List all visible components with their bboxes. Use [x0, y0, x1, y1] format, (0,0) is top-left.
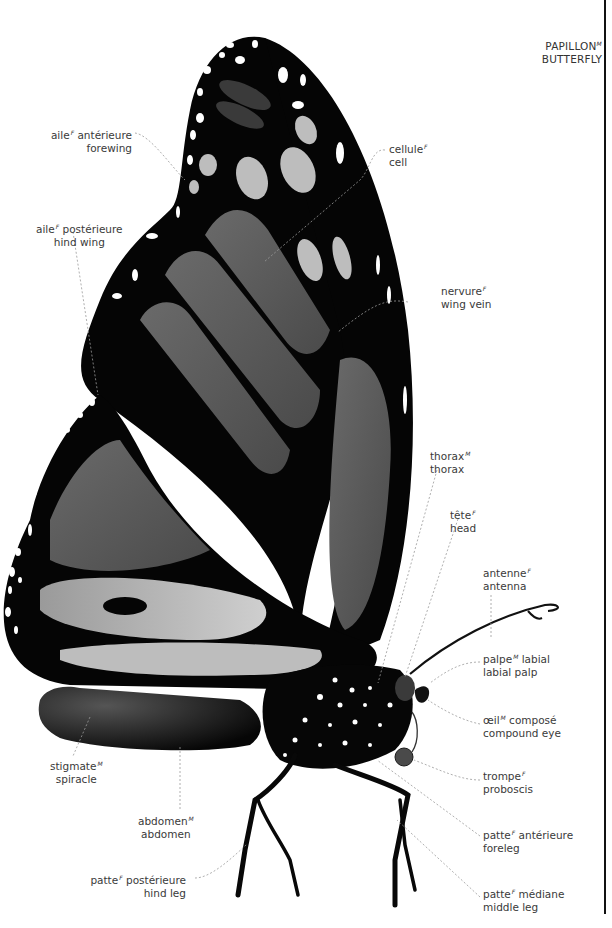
label-antenna: antenneF antenna: [483, 564, 531, 593]
label-head: têteF head: [450, 506, 476, 535]
label-middle-leg: patteF médiane middle leg: [483, 885, 564, 914]
label-proboscis: trompeF proboscis: [483, 767, 533, 796]
butterfly-diagram: PAPILLONM BUTTERFLY aileF antérieure for…: [0, 0, 612, 928]
label-thorax: thoraxM thorax: [430, 447, 470, 476]
title-fr: PAPILLONM: [545, 40, 602, 52]
title-en: BUTTERFLY: [542, 53, 602, 65]
diagram-title: PAPILLONM BUTTERFLY: [542, 37, 602, 66]
label-hind-wing: aileF postérieure hind wing: [36, 220, 123, 249]
label-hind-leg: patteF postérieure hind leg: [90, 871, 186, 900]
label-compound-eye: œilM composé compound eye: [483, 711, 561, 740]
abdomen-shape: [39, 687, 261, 751]
label-foreleg: patteF antérieure foreleg: [483, 826, 573, 855]
label-spiracle: stigmateM spiracle: [50, 757, 103, 786]
legs-shape: [238, 755, 415, 905]
label-labial-palp: palpeM labial labial palp: [483, 650, 550, 679]
label-abdomen: abdomenM abdomen: [138, 812, 194, 841]
page-border-line: [604, 0, 606, 914]
label-forewing: aileF antérieure forewing: [51, 126, 132, 155]
label-wing-vein: nervureF wing vein: [441, 282, 491, 311]
label-cell: celluleF cell: [389, 140, 428, 169]
